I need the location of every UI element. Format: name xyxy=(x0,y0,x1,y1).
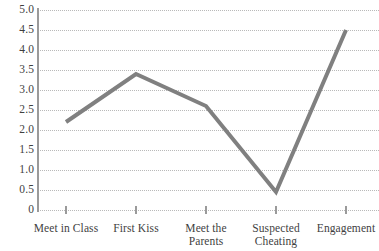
gridline xyxy=(38,10,379,11)
y-tick-label: 4.5 xyxy=(0,24,34,36)
y-tick-label: 3.5 xyxy=(0,64,34,76)
gridline xyxy=(38,170,379,171)
gridline xyxy=(38,210,379,211)
y-axis-line xyxy=(37,8,39,212)
y-tick-label: 4.0 xyxy=(0,44,34,56)
x-tick xyxy=(205,206,207,214)
x-tick xyxy=(275,206,277,214)
y-tick-label: 2.0 xyxy=(0,124,34,136)
x-tick xyxy=(135,206,137,214)
y-tick-label: 5.0 xyxy=(0,4,34,16)
gridline xyxy=(38,150,379,151)
gridline xyxy=(38,130,379,131)
y-tick-label: 1.5 xyxy=(0,144,34,156)
x-tick xyxy=(345,206,347,214)
y-tick-label: 0 xyxy=(0,204,34,216)
y-tick-label: 1.0 xyxy=(0,164,34,176)
x-axis-label: Meet in Class xyxy=(34,222,99,235)
x-axis-label: Suspected Cheating xyxy=(252,222,300,248)
gridline xyxy=(38,50,379,51)
gridline xyxy=(38,190,379,191)
gridline xyxy=(38,110,379,111)
x-axis-label: Engagement xyxy=(317,222,375,235)
gridline xyxy=(38,30,379,31)
series-line xyxy=(0,0,379,251)
y-tick-label: 0.5 xyxy=(0,184,34,196)
gridline xyxy=(38,90,379,91)
x-axis-label: First Kiss xyxy=(113,222,158,235)
y-tick-label: 3.0 xyxy=(0,84,34,96)
gridline xyxy=(38,70,379,71)
x-tick xyxy=(65,206,67,214)
x-axis-label: Meet the Parents xyxy=(185,222,226,248)
line-chart: 00.51.01.52.02.53.03.54.04.55.0 Meet in … xyxy=(0,0,379,251)
y-tick-label: 2.5 xyxy=(0,104,34,116)
